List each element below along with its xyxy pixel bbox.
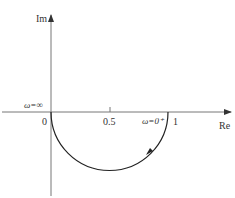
origin-label: 0 — [42, 116, 47, 127]
im-axis-label: Im — [36, 13, 47, 24]
tick-label-0-5: 0.5 — [103, 116, 116, 127]
omega-zero-label: ω=0⁺ — [142, 116, 165, 126]
re-axis-label: Re — [219, 120, 231, 131]
tick-label-1: 1 — [173, 116, 178, 127]
nyquist-diagram: Im Re 0 0.5 1 ω=∞ ω=0⁺ — [0, 0, 235, 198]
omega-infinity-label: ω=∞ — [24, 100, 43, 110]
plot-svg: Im Re 0 0.5 1 ω=∞ ω=0⁺ — [0, 0, 235, 198]
